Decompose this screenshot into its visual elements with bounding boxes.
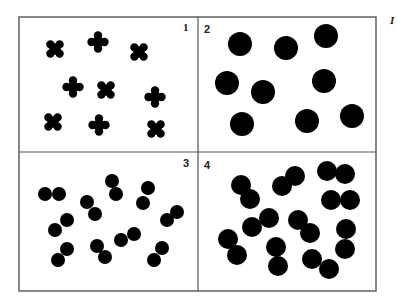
panel-2 [215,24,364,136]
circle-pair-icon [160,205,184,227]
circle-pair-icon [90,239,112,264]
panel-number-3: 3 [183,157,189,169]
circle-pair-icon [48,213,74,237]
cross-blob-icon [87,31,108,52]
cross-blob-icon [141,114,171,144]
cross-blob-icon [88,114,109,135]
circle-dot-icon [340,104,364,128]
circle-pair-icon [147,241,169,267]
circle-pair-icon [321,190,360,210]
figure-corner-label: I [390,14,394,26]
circle-pair-icon [335,219,356,259]
circle-pair-icon [242,208,279,237]
four-panel-figure: 1234 [0,0,397,308]
panel-number-4: 4 [204,159,211,171]
cross-blob-icon [144,86,165,107]
panel-number-1: 1 [183,21,189,33]
circle-dot-icon [274,36,298,60]
circle-pair-icon [317,161,355,184]
circle-pair-icon [302,249,339,279]
circle-pair-icon [38,187,66,201]
cross-blob-icon [38,107,68,137]
circle-pair-icon [266,237,288,276]
circle-pair-icon [80,195,102,221]
circle-dot-icon [228,32,252,56]
cross-blob-icon [40,34,70,64]
cross-blob-icon [62,76,83,97]
circle-dot-icon [314,24,338,48]
circle-pair-icon [218,229,247,265]
circle-pair-icon [114,227,141,247]
circle-dot-icon [215,71,239,95]
circle-pair-icon [136,181,155,210]
panel-3 [38,174,184,267]
circle-pair-icon [105,174,123,201]
circle-pair-icon [231,175,260,209]
panel-labels: 1234 [183,21,211,171]
panel-4 [218,161,360,279]
circle-dot-icon [295,109,319,133]
circle-dot-icon [230,112,254,136]
circle-dot-icon [251,80,275,104]
circle-pair-icon [272,166,305,196]
cross-blob-icon [124,37,154,67]
circle-pair-icon [51,242,74,267]
circle-pair-icon [288,210,320,243]
panel-number-2: 2 [204,23,210,35]
cross-blob-icon [91,75,121,105]
circle-dot-icon [312,69,336,93]
